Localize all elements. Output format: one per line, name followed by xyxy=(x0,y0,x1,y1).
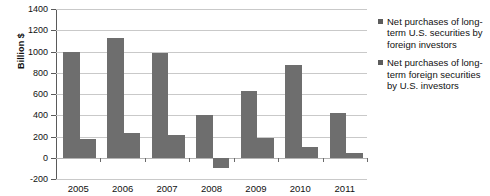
x-axis-tick xyxy=(145,158,146,162)
bar-group xyxy=(145,9,189,179)
x-axis-tick xyxy=(234,158,235,162)
x-axis-tick xyxy=(278,158,279,162)
bar-chart: Billion $ 1400120010008006004002000-200 … xyxy=(0,0,490,196)
bar xyxy=(124,133,141,157)
x-axis-tick xyxy=(100,158,101,162)
y-axis-tick-label: 600 xyxy=(33,89,48,99)
y-axis-tick-label: 200 xyxy=(33,132,48,142)
bar xyxy=(196,115,213,158)
bar-group xyxy=(234,9,278,179)
x-axis-tick-label: 2010 xyxy=(290,183,311,194)
y-axis-tick-label: 800 xyxy=(33,68,48,78)
bar-group xyxy=(100,9,144,179)
bar xyxy=(257,138,274,158)
bar-group xyxy=(323,9,367,179)
x-axis-tick-label: 2006 xyxy=(112,183,133,194)
x-axis-tick-label: 2008 xyxy=(201,183,222,194)
legend: Net purchases of long-term U.S. securiti… xyxy=(378,16,488,98)
bar xyxy=(346,153,363,158)
bar xyxy=(285,65,302,157)
x-axis-tick-label: 2011 xyxy=(335,183,355,194)
bar xyxy=(168,135,185,158)
y-axis-tick-label: 400 xyxy=(33,110,48,120)
legend-entry: Net purchases of long-term foreign secur… xyxy=(378,57,488,91)
bar-group xyxy=(189,9,233,179)
x-axis-tick xyxy=(323,158,324,162)
bar xyxy=(107,38,124,158)
x-axis-tick-label: 2007 xyxy=(156,183,177,194)
x-axis-tick xyxy=(189,158,190,162)
bar-group xyxy=(278,9,322,179)
bar xyxy=(330,113,347,158)
y-axis-tick xyxy=(51,179,56,180)
legend-entry: Net purchases of long-term U.S. securiti… xyxy=(378,16,488,50)
x-axis-tick-label: 2005 xyxy=(68,183,89,194)
legend-swatch-icon xyxy=(378,19,383,24)
legend-label: Net purchases of long-term U.S. securiti… xyxy=(387,16,483,50)
bar xyxy=(152,53,169,158)
gridline xyxy=(56,179,367,180)
x-axis-tick xyxy=(367,158,368,162)
y-axis-tick-label: -200 xyxy=(30,174,48,184)
y-axis-title: Billion $ xyxy=(16,16,26,86)
y-axis-tick-label: 1400 xyxy=(28,4,48,14)
bar xyxy=(241,91,258,158)
bar xyxy=(213,158,230,169)
bar-group xyxy=(56,9,100,179)
x-axis-tick-label: 2009 xyxy=(245,183,266,194)
plot-area: 1400120010008006004002000-200 xyxy=(56,9,367,179)
bar xyxy=(80,139,97,158)
y-axis-tick-label: 1000 xyxy=(28,47,48,57)
y-axis-tick-label: 1200 xyxy=(28,25,48,35)
legend-swatch-icon xyxy=(378,60,383,65)
bar-groups xyxy=(56,9,367,179)
bar xyxy=(302,147,319,158)
bar xyxy=(63,52,80,158)
legend-label: Net purchases of long-term foreign secur… xyxy=(387,57,483,91)
y-axis-tick-label: 0 xyxy=(43,153,48,163)
